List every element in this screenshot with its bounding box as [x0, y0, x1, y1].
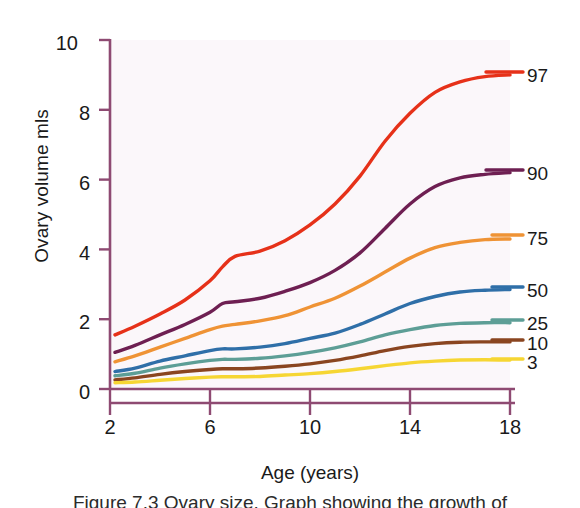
series-label-97: 97 — [527, 66, 548, 85]
legend-line-stubs — [486, 72, 523, 359]
figure-ovary-volume-percentiles: 0 2 4 6 8 10 2 6 10 14 18 Ovary volume m… — [0, 0, 580, 508]
series-label-90: 90 — [527, 164, 548, 183]
series-label-3: 3 — [527, 353, 538, 372]
y-tick-label: 0 — [46, 382, 90, 402]
y-tick-label: 10 — [34, 33, 78, 53]
x-tick-label: 10 — [290, 417, 330, 437]
x-tick-label: 6 — [190, 417, 230, 437]
series-label-50: 50 — [527, 281, 548, 300]
series-label-10: 10 — [527, 334, 548, 353]
series-label-75: 75 — [527, 229, 548, 248]
series-label-25: 25 — [527, 314, 548, 333]
x-tick-label: 18 — [490, 417, 530, 437]
x-tick-label: 14 — [390, 417, 430, 437]
percentile-curves — [115, 75, 510, 383]
figure-caption: Figure 7.3 Ovary size. Graph showing the… — [0, 492, 580, 508]
y-axis-title: Ovary volume mls — [31, 66, 53, 306]
x-axis-title: Age (years) — [110, 462, 510, 484]
x-tick-label: 2 — [90, 417, 130, 437]
y-tick-label: 2 — [46, 312, 90, 332]
